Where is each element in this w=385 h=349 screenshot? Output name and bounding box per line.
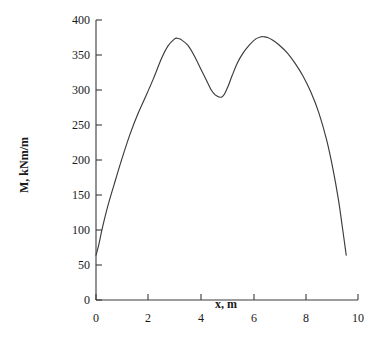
y-axis-title: M, kNm/m: [17, 137, 31, 193]
x-tick-label-10: 10: [352, 311, 364, 325]
x-tick-label-8: 8: [303, 311, 309, 325]
y-axis-tick-labels: 0 50 100 150 200 250 300 350 400: [72, 13, 90, 307]
bending-moment-chart: 0 50 100 150 200 250 300 350 400 0 2 4 6…: [0, 0, 385, 349]
chart-page: 0 50 100 150 200 250 300 350 400 0 2 4 6…: [0, 0, 385, 349]
y-tick-label-100: 100: [72, 223, 90, 237]
bending-moment-curve: [96, 37, 346, 256]
y-tick-label-0: 0: [84, 293, 90, 307]
x-tick-label-4: 4: [198, 311, 204, 325]
x-tick-label-6: 6: [251, 311, 257, 325]
x-tick-label-2: 2: [145, 311, 151, 325]
x-tick-label-0: 0: [93, 311, 99, 325]
y-tick-label-200: 200: [72, 153, 90, 167]
x-axis-title: x, m: [215, 297, 237, 311]
y-tick-label-250: 250: [72, 118, 90, 132]
y-tick-label-350: 350: [72, 48, 90, 62]
y-axis-ticks: [96, 20, 102, 300]
y-tick-label-50: 50: [78, 258, 90, 272]
y-tick-label-300: 300: [72, 83, 90, 97]
y-tick-label-150: 150: [72, 188, 90, 202]
x-axis-tick-labels: 0 2 4 6 8 10: [93, 311, 364, 325]
y-tick-label-400: 400: [72, 13, 90, 27]
